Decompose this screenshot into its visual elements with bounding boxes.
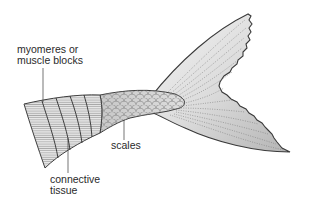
label-connective-tissue: connective tissue <box>50 174 100 196</box>
caudal-fin <box>150 14 290 152</box>
label-myomeres: myomeres or muscle blocks <box>17 44 83 66</box>
label-connective-line2: tissue <box>50 185 100 196</box>
label-myomeres-line2: muscle blocks <box>17 55 83 66</box>
label-scales-text: scales <box>111 140 141 151</box>
muscle-region <box>24 95 102 168</box>
label-scales: scales <box>111 140 141 151</box>
fish-tail-diagram <box>0 0 311 205</box>
